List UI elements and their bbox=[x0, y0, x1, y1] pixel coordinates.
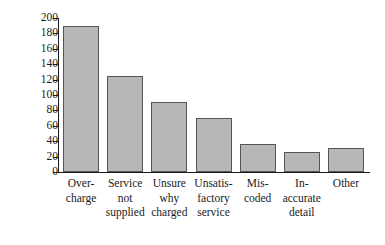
y-axis-tick-label: 40 bbox=[28, 135, 58, 147]
y-axis-tick-label: 140 bbox=[28, 58, 58, 70]
y-axis-tick-label: 160 bbox=[28, 43, 58, 55]
y-axis-tick-label: 120 bbox=[28, 74, 58, 86]
bar-chart-figure: Number of queries 2001801601401201008060… bbox=[0, 0, 385, 245]
x-axis-category-label-line: service bbox=[187, 205, 241, 220]
y-axis-tick-label: 200 bbox=[28, 12, 58, 24]
bar bbox=[63, 26, 99, 172]
x-axis-category-label-line: accurate bbox=[275, 191, 329, 206]
bar bbox=[196, 118, 232, 172]
bar bbox=[328, 148, 364, 172]
y-axis-tick-label: 100 bbox=[28, 89, 58, 101]
bar bbox=[151, 102, 187, 172]
y-axis-tick-label: 80 bbox=[28, 105, 58, 117]
y-axis-tick-label: 20 bbox=[28, 151, 58, 163]
x-axis-line bbox=[58, 172, 370, 173]
x-axis-category-label: Other bbox=[319, 176, 373, 191]
x-axis-category-labels: Over-chargeServicenotsuppliedUnsurewhych… bbox=[59, 176, 369, 238]
bar bbox=[107, 76, 143, 172]
bar bbox=[240, 144, 276, 172]
bar bbox=[284, 152, 320, 172]
y-axis-tick-label: 60 bbox=[28, 120, 58, 132]
x-axis-category-label-line: detail bbox=[275, 205, 329, 220]
x-axis-category-label-line: Other bbox=[319, 176, 373, 191]
y-axis-tick-label: 180 bbox=[28, 28, 58, 40]
bars-layer bbox=[59, 18, 368, 172]
plot-area: 200180160140120100806040200 bbox=[58, 18, 368, 172]
